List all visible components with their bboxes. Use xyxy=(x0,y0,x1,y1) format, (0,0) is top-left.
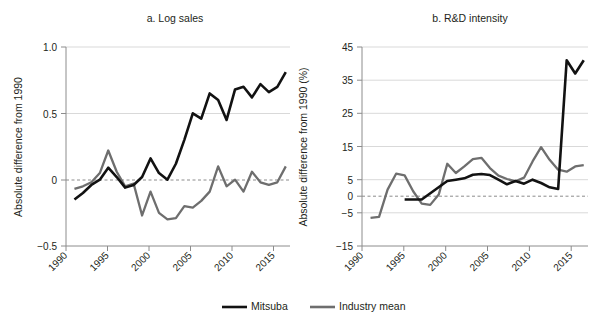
panel-b-ytick-15: 15 xyxy=(342,142,354,153)
panel-b-ytick-35: 35 xyxy=(342,75,354,86)
panel-a-y-axis-label: Absolute difference from 1990 xyxy=(12,77,24,217)
panel-a-ytick-4: −0.5 xyxy=(37,241,57,252)
panel-b-title: b. R&D intensity xyxy=(432,12,508,24)
mitsuba-legend-label: Mitsuba xyxy=(251,300,288,312)
panel-a-title: a. Log sales xyxy=(147,12,204,24)
panel-a-ytick-1: 1.0 xyxy=(43,42,57,53)
panel-b-ytick-0: 0 xyxy=(347,191,353,202)
panel-b-ytick-neg5: −5 xyxy=(342,208,354,219)
panel-a-ytick-2: 0.5 xyxy=(43,109,57,120)
panel-b-ytick-neg15: −15 xyxy=(336,241,353,252)
panel-b-ytick-25: 25 xyxy=(342,108,354,119)
industry-mean-legend-label: Industry mean xyxy=(339,300,406,312)
panel-b-ytick-5: 5 xyxy=(347,175,353,186)
dual-panel-line-chart-figure: a. Log sales Absolute difference from 19… xyxy=(0,0,602,327)
panel-a-ytick-3: 0 xyxy=(51,175,57,186)
panel-b-ytick-45: 45 xyxy=(342,42,354,53)
panel-b-y-axis-label: Absolute difference from 1990 (%) xyxy=(297,67,309,226)
